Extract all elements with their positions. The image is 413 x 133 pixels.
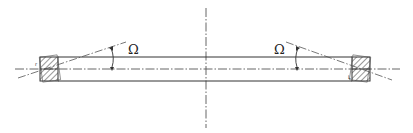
right-tilted-axis — [286, 42, 392, 80]
ring-cross-section-diagram: r L Ω Ω — [0, 0, 413, 133]
left-tilted-axis — [18, 42, 126, 78]
angle-label-right: Ω — [274, 42, 285, 57]
svg-text:L: L — [348, 74, 351, 80]
angle-label-left: Ω — [128, 42, 139, 57]
left-section-block: r — [35, 55, 61, 82]
svg-text:r: r — [35, 61, 38, 67]
left-angle-arc-icon — [109, 46, 114, 71]
right-angle-arc-icon — [295, 46, 300, 71]
